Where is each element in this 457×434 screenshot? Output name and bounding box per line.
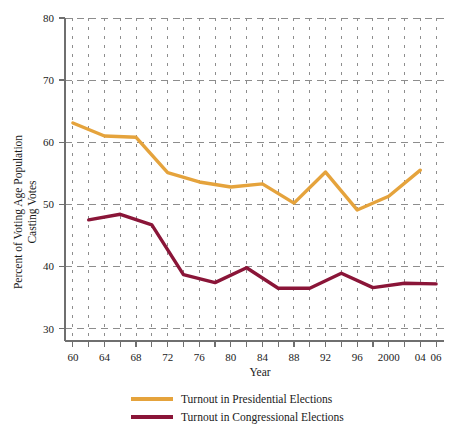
axis-ticks: [59, 18, 436, 347]
chart-figure: 807060504030 606468727680848892962000040…: [0, 0, 457, 434]
legend-item[interactable]: Turnout in Congressional Elections: [131, 411, 344, 424]
x-tick-label: 80: [225, 351, 237, 363]
y-axis-tick-labels: 807060504030: [43, 12, 55, 335]
legend-item[interactable]: Turnout in Presidential Elections: [131, 393, 333, 405]
y-tick-label: 60: [43, 136, 55, 148]
x-tick-label: 88: [288, 351, 300, 363]
x-tick-label: 60: [67, 351, 79, 363]
gridlines: [65, 18, 444, 341]
y-axis-title-line2: Casting Votes: [26, 180, 39, 244]
chart-legend: Turnout in Presidential ElectionsTurnout…: [131, 393, 344, 424]
x-tick-label: 2000: [378, 351, 401, 363]
x-axis-tick-labels: 6064687276808488929620000406: [67, 351, 442, 363]
y-tick-label: 70: [43, 74, 55, 86]
x-tick-label: 68: [131, 351, 143, 363]
legend-label: Turnout in Congressional Elections: [181, 411, 344, 424]
x-tick-label: 84: [257, 351, 269, 363]
y-axis-title-line1: Percent of Voting Age Population: [12, 135, 25, 289]
x-tick-label: 76: [194, 351, 206, 363]
y-tick-label: 80: [43, 12, 55, 24]
y-tick-label: 30: [43, 323, 55, 335]
x-tick-label: 04: [415, 351, 427, 363]
x-tick-label: 96: [352, 351, 364, 363]
legend-label: Turnout in Presidential Elections: [181, 393, 333, 405]
x-tick-label: 92: [320, 351, 331, 363]
x-tick-label: 64: [99, 351, 111, 363]
data-series-lines: [73, 123, 436, 288]
y-tick-label: 50: [43, 198, 55, 210]
x-tick-label: 06: [431, 351, 443, 363]
axis-lines: [65, 18, 444, 341]
x-tick-label: 72: [162, 351, 173, 363]
turnout-line-chart: 807060504030 606468727680848892962000040…: [0, 0, 457, 434]
y-tick-label: 40: [43, 260, 55, 272]
x-axis-title: Year: [249, 366, 270, 378]
